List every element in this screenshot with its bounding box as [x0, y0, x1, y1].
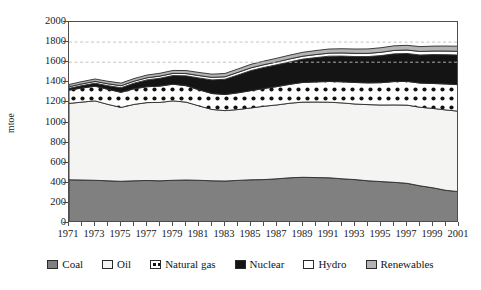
x-tick-label: 1983: [210, 228, 238, 239]
legend-label: Coal: [62, 259, 83, 270]
y-tick-mark: [63, 222, 68, 223]
renewables-swatch: [366, 260, 377, 269]
x-tick-mark: [211, 222, 212, 226]
x-tick-label: 1987: [262, 228, 290, 239]
x-tick-mark: [380, 222, 381, 226]
x-tick-label: 1999: [418, 228, 446, 239]
x-tick-mark: [276, 222, 277, 226]
legend-label: Oil: [117, 259, 131, 270]
x-tick-mark: [315, 222, 316, 226]
x-tick-mark: [341, 222, 342, 226]
x-tick-mark: [94, 222, 95, 226]
x-tick-label: 1975: [106, 228, 134, 239]
x-tick-mark: [81, 222, 82, 226]
y-tick-mark: [63, 182, 68, 183]
x-tick-label: 1991: [314, 228, 342, 239]
chart-legend: CoalOilNatural gasNuclearHydroRenewables: [0, 259, 481, 270]
x-tick-mark: [419, 222, 420, 226]
x-tick-mark: [133, 222, 134, 226]
legend-label: Natural gas: [165, 259, 215, 270]
x-tick-mark: [367, 222, 368, 226]
x-tick-mark: [237, 222, 238, 226]
legend-label: Nuclear: [250, 259, 285, 270]
legend-item-coal[interactable]: Coal: [47, 259, 83, 270]
x-tick-mark: [185, 222, 186, 226]
y-tick-mark: [63, 81, 68, 82]
x-tick-label: 1997: [392, 228, 420, 239]
x-tick-mark: [302, 222, 303, 226]
x-tick-mark: [393, 222, 394, 226]
x-tick-mark: [172, 222, 173, 226]
x-tick-label: 1979: [158, 228, 186, 239]
y-tick-mark: [63, 202, 68, 203]
legend-item-natural-gas[interactable]: Natural gas: [150, 259, 215, 270]
legend-label: Renewables: [381, 259, 434, 270]
x-tick-label: 1993: [340, 228, 368, 239]
x-tick-label: 1977: [132, 228, 160, 239]
x-tick-label: 2001: [444, 228, 472, 239]
x-tick-mark: [406, 222, 407, 226]
legend-item-oil[interactable]: Oil: [102, 259, 131, 270]
x-tick-mark: [328, 222, 329, 226]
x-tick-mark: [445, 222, 446, 226]
y-tick-mark: [63, 61, 68, 62]
x-tick-mark: [198, 222, 199, 226]
x-tick-mark: [250, 222, 251, 226]
nuclear-swatch: [235, 260, 246, 269]
x-tick-label: 1989: [288, 228, 316, 239]
y-tick-mark: [63, 162, 68, 163]
x-tick-mark: [263, 222, 264, 226]
y-tick-mark: [63, 41, 68, 42]
natural-gas-swatch: [150, 260, 161, 269]
oil-swatch: [102, 260, 113, 269]
x-tick-mark: [120, 222, 121, 226]
x-tick-mark: [146, 222, 147, 226]
x-tick-mark: [107, 222, 108, 226]
stacked-area-chart: mtoe 02004006008001000120014001600180020…: [0, 0, 481, 290]
y-tick-mark: [63, 142, 68, 143]
x-tick-label: 1981: [184, 228, 212, 239]
x-tick-label: 1971: [54, 228, 82, 239]
x-axis-tick-labels: 1971197319751977197919811983198519871989…: [0, 0, 481, 290]
x-tick-label: 1985: [236, 228, 264, 239]
hydro-swatch: [303, 260, 314, 269]
x-tick-mark: [289, 222, 290, 226]
x-tick-mark: [224, 222, 225, 226]
legend-label: Hydro: [318, 259, 346, 270]
legend-item-hydro[interactable]: Hydro: [303, 259, 346, 270]
legend-item-renewables[interactable]: Renewables: [366, 259, 434, 270]
coal-swatch: [47, 260, 58, 269]
x-tick-mark: [159, 222, 160, 226]
y-tick-mark: [63, 122, 68, 123]
x-tick-mark: [458, 222, 459, 226]
y-tick-mark: [63, 21, 68, 22]
x-tick-label: 1973: [80, 228, 108, 239]
legend-item-nuclear[interactable]: Nuclear: [235, 259, 285, 270]
x-tick-label: 1995: [366, 228, 394, 239]
y-tick-mark: [63, 101, 68, 102]
x-tick-mark: [68, 222, 69, 226]
x-tick-mark: [432, 222, 433, 226]
x-tick-mark: [354, 222, 355, 226]
